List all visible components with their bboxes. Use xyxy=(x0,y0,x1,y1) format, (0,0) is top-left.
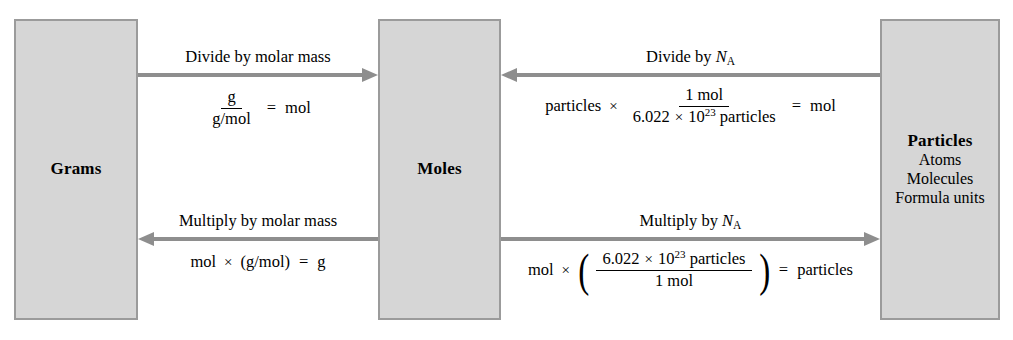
node-box-moles: Moles xyxy=(378,19,501,320)
numerator-unit: particles xyxy=(690,249,746,268)
node-subitem-molecules: Molecules xyxy=(907,170,974,189)
equation-operand-left: mol xyxy=(187,252,219,272)
arrow-shaft xyxy=(501,237,865,241)
fraction-numerator: 6.022×1023 particles xyxy=(596,250,751,271)
equation-moles-to-particles: mol × ( 6.022×1023 particles 1 mol ) = p… xyxy=(501,250,880,291)
fraction-numerator: 1 mol xyxy=(679,86,729,107)
numerator-exponent: 23 xyxy=(675,248,686,260)
label-prefix: Divide by xyxy=(646,47,716,66)
label-text: Multiply by molar mass xyxy=(179,211,337,230)
fraction-g-over-gmol: g g/mol xyxy=(206,88,257,129)
node-box-particles: Particles Atoms Molecules Formula units xyxy=(880,19,1000,320)
arrow-shaft xyxy=(138,73,363,77)
avogadro-subscript: A xyxy=(733,219,741,231)
arrow-particles-to-moles xyxy=(501,71,880,78)
fraction-one-mol-over-avogadro: 1 mol 6.022×1023 particles xyxy=(627,86,782,127)
fraction-denominator: 1 mol xyxy=(649,271,699,291)
equation-operand-left: mol xyxy=(525,260,557,280)
equals-sign: = xyxy=(261,98,282,118)
arrow-head-right-icon xyxy=(362,68,378,82)
equals-sign: = xyxy=(786,96,807,116)
equation-moles-to-grams: mol × (g/mol) = g xyxy=(138,252,378,272)
multiplication-sign: × xyxy=(604,98,622,115)
multiplication-sign: × xyxy=(557,262,575,279)
arrow-grams-to-moles xyxy=(138,71,378,78)
denominator-exponent: 23 xyxy=(705,105,716,117)
arrow-head-left-icon xyxy=(501,68,517,82)
right-parenthesis: ) xyxy=(758,254,770,287)
arrow-shaft xyxy=(516,73,880,77)
equation-result: mol xyxy=(807,96,839,116)
node-subitem-atoms: Atoms xyxy=(919,151,962,170)
equation-result: mol xyxy=(282,98,314,118)
numerator-coefficient: 6.022 xyxy=(602,249,639,268)
equation-result: g xyxy=(314,252,328,272)
equation-factor: (g/mol) xyxy=(238,252,294,272)
avogadro-symbol: N xyxy=(716,47,727,66)
left-parenthesis: ( xyxy=(578,254,590,287)
equation-operand-left: particles xyxy=(542,96,604,116)
equals-sign: = xyxy=(773,260,794,280)
arrow-shaft xyxy=(153,237,378,241)
mole-conversion-diagram: Grams Moles Particles Atoms Molecules Fo… xyxy=(0,0,1013,340)
numerator-times-sign: × xyxy=(640,251,658,267)
arrow-head-left-icon xyxy=(138,232,154,246)
arrow-moles-to-particles xyxy=(501,235,880,242)
equation-grams-to-moles: g g/mol = mol xyxy=(138,88,378,129)
arrow-label-multiply-by-molar-mass: Multiply by molar mass xyxy=(138,211,378,231)
fraction-numerator: g xyxy=(221,88,241,109)
node-box-grams: Grams xyxy=(14,19,138,320)
node-subitem-formula-units: Formula units xyxy=(895,189,984,208)
label-prefix: Multiply by xyxy=(640,211,723,230)
fraction-avogadro-over-one-mol: 6.022×1023 particles 1 mol xyxy=(596,250,751,291)
denominator-base: 10 xyxy=(688,107,705,126)
avogadro-subscript: A xyxy=(727,55,735,67)
multiplication-sign: × xyxy=(219,254,237,271)
node-title-moles: Moles xyxy=(417,159,461,179)
node-title-grams: Grams xyxy=(50,159,101,179)
label-text: Divide by molar mass xyxy=(185,47,330,66)
equation-particles-to-moles: particles × 1 mol 6.022×1023 particles =… xyxy=(501,86,880,127)
arrow-moles-to-grams xyxy=(138,235,378,242)
fraction-denominator: g/mol xyxy=(206,109,257,129)
equation-result: particles xyxy=(794,260,856,280)
arrow-head-right-icon xyxy=(864,232,880,246)
equals-sign: = xyxy=(293,252,314,272)
denominator-times-sign: × xyxy=(670,109,688,125)
arrow-label-divide-by-molar-mass: Divide by molar mass xyxy=(138,47,378,67)
fraction-denominator: 6.022×1023 particles xyxy=(627,107,782,127)
numerator-base: 10 xyxy=(658,249,675,268)
denominator-coefficient: 6.022 xyxy=(633,107,670,126)
denominator-unit: particles xyxy=(720,107,776,126)
arrow-label-multiply-by-avogadro: Multiply by NA xyxy=(501,211,880,231)
arrow-label-divide-by-avogadro: Divide by NA xyxy=(501,47,880,67)
node-title-particles: Particles xyxy=(907,131,972,151)
avogadro-symbol: N xyxy=(722,211,733,230)
